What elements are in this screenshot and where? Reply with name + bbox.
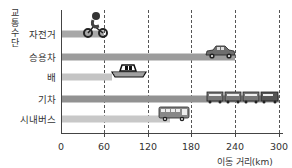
y-axis-title-char: 통 xyxy=(10,18,20,28)
x-tick-mark xyxy=(235,134,236,137)
category-label-train: 기차 xyxy=(38,92,56,106)
x-tick-label-60: 60 xyxy=(98,141,110,152)
x-tick-label-240: 240 xyxy=(226,141,244,152)
category-label-car: 승용차 xyxy=(29,50,56,64)
y-axis-line xyxy=(61,10,62,134)
x-tick-mark xyxy=(279,134,280,137)
gridline-240 xyxy=(235,10,236,133)
gridline-180 xyxy=(191,10,192,133)
x-tick-label-300: 300 xyxy=(270,141,288,152)
x-tick-mark xyxy=(104,134,105,137)
gridline-300 xyxy=(279,10,280,133)
x-tick-label-0: 0 xyxy=(58,141,64,152)
bar-bus xyxy=(62,116,170,123)
bus-icon xyxy=(158,106,190,122)
bar-boat xyxy=(62,74,112,81)
bicycle-rider-icon xyxy=(83,11,109,39)
x-tick-mark xyxy=(148,134,149,137)
category-label-bicycle: 자전거 xyxy=(29,27,56,41)
x-tick-label-180: 180 xyxy=(182,141,200,152)
x-tick-mark xyxy=(191,134,192,137)
boat-icon xyxy=(110,62,148,80)
train-icon xyxy=(206,90,280,104)
y-axis-title-char: 교 xyxy=(10,8,20,18)
y-axis-title-char: 단 xyxy=(10,38,20,48)
car-icon xyxy=(204,44,236,60)
category-label-bus: 시내버스 xyxy=(20,112,56,126)
x-tick-label-120: 120 xyxy=(139,141,157,152)
x-axis-line xyxy=(61,133,283,134)
category-label-boat: 배 xyxy=(47,70,56,84)
y-axis-title: 교 통 수 단 xyxy=(10,8,20,48)
y-axis-title-char: 수 xyxy=(10,28,20,38)
x-axis-title: 이동 거리(km) xyxy=(217,155,273,168)
